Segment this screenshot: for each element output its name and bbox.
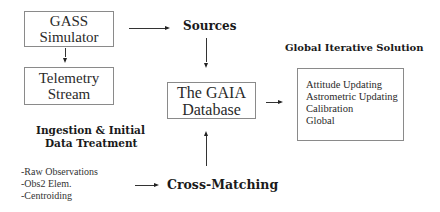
gass-simulator-line2: Simulator — [39, 29, 98, 45]
arrow-head-right-icon — [165, 26, 170, 30]
arrow-gass-to-telemetry — [65, 48, 66, 57]
global-iterative-solution-label: Global Iterative Solution — [285, 42, 424, 53]
solution-item-astrometric: Astrometric Updating — [306, 91, 403, 103]
solution-item-calibration: Calibration — [306, 103, 403, 115]
gaia-database-line1: The GAIA — [177, 84, 246, 101]
telemetry-stream-line2: Stream — [48, 86, 91, 102]
global-solution-box: Attitude Updating Astrometric Updating C… — [297, 68, 404, 141]
arrow-sources-to-database — [206, 38, 207, 62]
solution-item-attitude: Attitude Updating — [306, 79, 403, 91]
arrow-database-to-solution — [266, 102, 278, 103]
arrow-head-right-icon — [278, 100, 283, 104]
ingestion-step-centroiding: -Centroiding — [21, 190, 98, 202]
ingestion-step-raw: -Raw Observations — [21, 166, 98, 178]
solution-item-global: Global — [306, 115, 403, 127]
ingestion-step-obs2: -Obs2 Elem. — [21, 178, 98, 190]
cross-matching-label: Cross-Matching — [167, 177, 278, 192]
telemetry-stream-line1: Telemetry — [39, 70, 100, 86]
ingestion-steps-list: -Raw Observations -Obs2 Elem. -Centroidi… — [21, 166, 98, 202]
sources-label: Sources — [183, 19, 236, 33]
arrow-head-down-icon — [204, 63, 208, 68]
ingestion-label-line1: Ingestion & Initial — [36, 124, 145, 136]
arrow-head-up-icon — [204, 131, 208, 136]
arrow-head-right-icon — [154, 183, 159, 187]
ingestion-label-line2: Data Treatment — [45, 137, 137, 149]
gass-simulator-line1: GASS — [50, 13, 88, 29]
gaia-database-line2: Database — [182, 101, 241, 118]
gaia-database-box: The GAIA Database — [167, 82, 256, 119]
arrow-steps-to-crossmatching — [135, 185, 154, 186]
arrow-crossmatching-to-database — [206, 136, 207, 166]
arrow-gass-to-sources — [129, 28, 165, 29]
gass-simulator-box: GASS Simulator — [24, 11, 114, 47]
arrow-head-down-icon — [63, 58, 67, 63]
telemetry-stream-box: Telemetry Stream — [24, 67, 114, 105]
